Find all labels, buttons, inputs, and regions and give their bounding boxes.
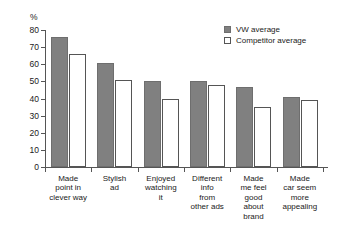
x-axis-tick [323,167,324,172]
y-axis-tick-label: 80 [30,26,39,35]
bar-competitor-average [254,107,271,167]
y-axis-tick-label: 20 [30,129,39,138]
y-axis-tick-label: 60 [30,60,39,69]
x-axis-category-label: Enjoyedwatchingit [138,174,184,202]
y-axis-tick-label: 40 [30,94,39,103]
bar-group [45,30,91,167]
bar-vw-average [236,87,253,167]
bar-competitor-average [208,85,225,167]
x-axis-category-label: Stylishad [91,174,137,193]
x-axis-category-label: Mademe feelgoodaboutbrand [230,174,276,221]
bar-chart: % VW average Competitor average 01020304… [0,0,350,228]
bar-vw-average [97,63,114,167]
x-axis-tick [138,167,139,172]
x-axis-tick [45,167,46,172]
y-axis-unit-label: % [30,12,38,22]
y-axis-tick-label: 0 [34,163,39,172]
bar-vw-average [51,37,68,167]
bar-vw-average [283,97,300,167]
bar-group [91,30,137,167]
x-axis-tick [184,167,185,172]
x-axis-category-label: Madepoint inclever way [45,174,91,202]
x-axis-tick [230,167,231,172]
bar-competitor-average [301,100,318,167]
x-axis-category-label: Madecar seemmoreappealing [277,174,323,212]
x-axis-category-label: Differentinfofromother ads [184,174,230,212]
x-axis-tick [91,167,92,172]
bar-vw-average [190,81,207,167]
x-axis-tick [277,167,278,172]
bar-competitor-average [162,99,179,168]
y-axis-tick-label: 10 [30,146,39,155]
y-axis-tick-label: 30 [30,111,39,120]
bar-group [138,30,184,167]
y-axis-tick-label: 50 [30,77,39,86]
bar-vw-average [144,81,161,167]
plot-area [45,30,323,167]
bar-competitor-average [69,54,86,167]
bar-competitor-average [115,80,132,167]
bar-group [230,30,276,167]
x-axis-line [45,167,328,168]
bar-group [277,30,323,167]
bar-group [184,30,230,167]
y-axis-tick-label: 70 [30,43,39,52]
